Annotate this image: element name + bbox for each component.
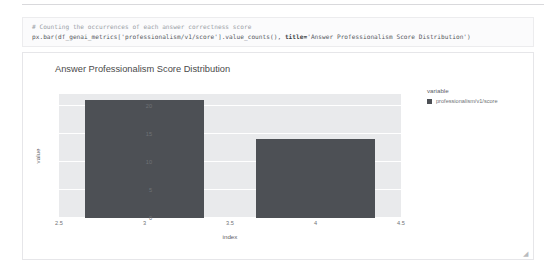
resize-handle-icon[interactable]: ◢ <box>523 250 530 257</box>
code-comment-line: # Counting the occurrences of each answe… <box>32 22 251 31</box>
bar[interactable] <box>256 139 376 218</box>
x-tick-label: 4.5 <box>397 220 405 226</box>
code-title-argument: 'Answer Professionalism Score Distributi… <box>307 33 471 40</box>
x-tick-label: 4 <box>314 220 317 226</box>
y-axis-title: value <box>34 149 41 164</box>
y-tick-label: 10 <box>112 159 152 165</box>
code-keyword-title: title= <box>285 33 307 40</box>
code-source-line: px.bar(df_genai_metrics['professionalism… <box>32 32 471 41</box>
x-tick-label: 2.5 <box>55 220 63 226</box>
plotly-figure[interactable]: Answer Professionalism Score Distributio… <box>23 53 533 259</box>
legend-entries: professionalism/v1/score <box>427 98 531 104</box>
chart-title: Answer Professionalism Score Distributio… <box>55 64 230 74</box>
code-cell[interactable]: # Counting the occurrences of each answe… <box>22 17 534 47</box>
legend-item[interactable]: professionalism/v1/score <box>427 98 531 104</box>
legend-title: variable <box>427 87 531 94</box>
plot-area[interactable] <box>59 94 401 218</box>
chart-legend[interactable]: variable professionalism/v1/score <box>427 87 531 104</box>
notebook-top-divider <box>22 4 544 5</box>
legend-swatch-icon <box>427 99 432 104</box>
y-tick-label: 5 <box>112 187 152 193</box>
x-tick-label: 3.5 <box>226 220 234 226</box>
x-tick-label: 3 <box>143 220 146 226</box>
output-cell: Answer Professionalism Score Distributio… <box>22 52 534 260</box>
y-tick-label: 15 <box>112 131 152 137</box>
x-axis-title: index <box>59 233 401 240</box>
legend-item-label: professionalism/v1/score <box>436 98 498 104</box>
code-call-prefix: px.bar(df_genai_metrics['professionalism… <box>32 33 285 40</box>
y-tick-label: 20 <box>112 103 152 109</box>
